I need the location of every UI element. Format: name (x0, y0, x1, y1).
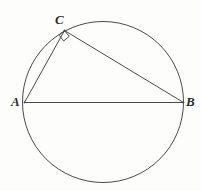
geometry-figure: A B C (0, 0, 201, 191)
vertex-point-A (24, 102, 26, 104)
vertex-point-B (183, 102, 185, 104)
vertex-label-a: A (11, 95, 20, 108)
segment-CB (65, 31, 184, 103)
vertex-label-c: C (55, 13, 64, 26)
vertex-point-C (64, 30, 66, 32)
geometry-canvas (0, 0, 201, 191)
vertex-label-b: B (186, 95, 195, 108)
